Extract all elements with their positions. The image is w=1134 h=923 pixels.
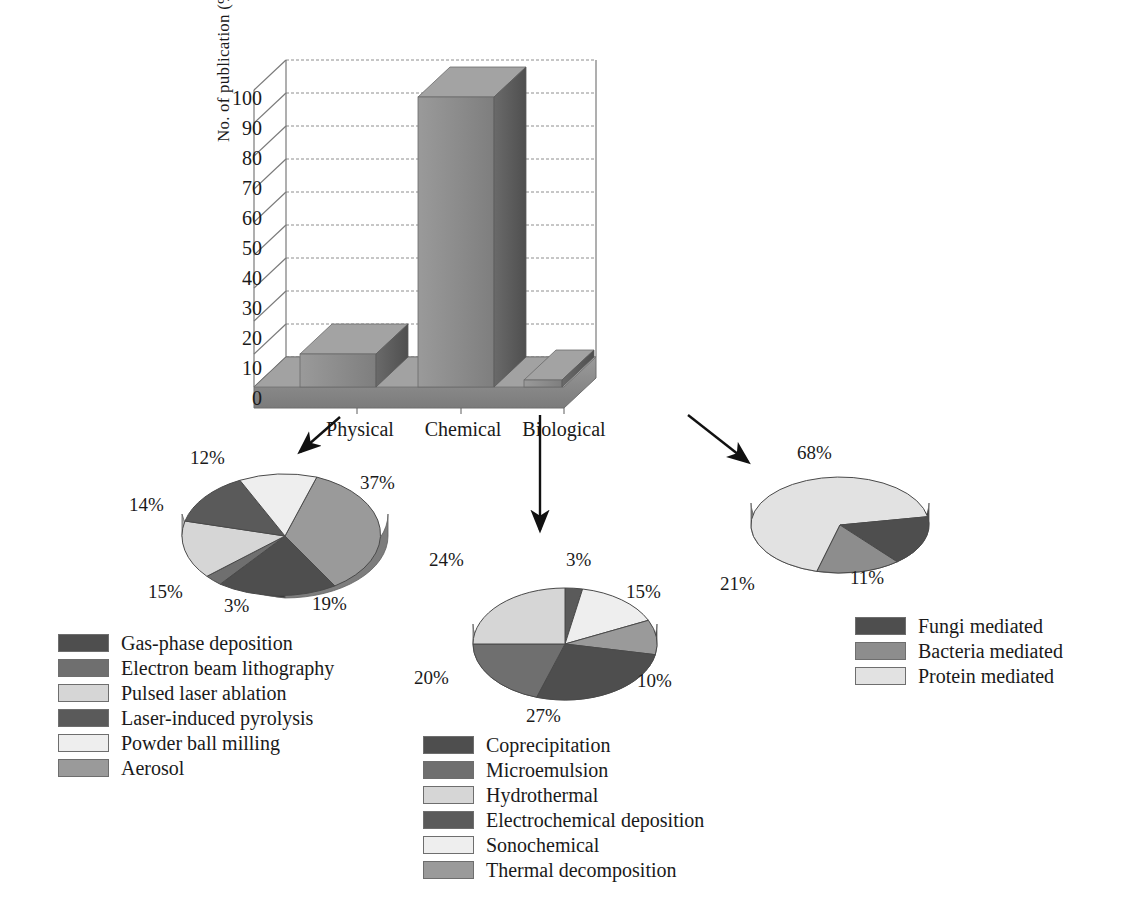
slice-hydrothermal [473, 588, 565, 644]
legend-item-bacteria-mediated: Bacteria mediated [855, 638, 1063, 663]
legend-label-fungi-mediated: Fungi mediated [918, 616, 1043, 636]
legend-biological: Fungi mediated Bacteria mediated Protein… [855, 613, 1063, 688]
pie-physical-label-19: 19% [312, 593, 347, 615]
legend-item-thermal-decomposition: Thermal decomposition [423, 857, 704, 882]
legend-swatch-microemulsion [423, 761, 474, 779]
legend-swatch-thermal-decomposition [423, 861, 474, 879]
y-tick-0: 0 [216, 387, 262, 410]
legend-swatch-bacteria-mediated [855, 642, 906, 660]
legend-swatch-electrochemical [423, 811, 474, 829]
legend-swatch-gas-phase [58, 634, 109, 652]
legend-label-laser-pyrolysis: Laser-induced pyrolysis [121, 708, 313, 728]
legend-physical: Gas-phase deposition Electron beam litho… [58, 630, 334, 780]
legend-swatch-protein-mediated [855, 667, 906, 685]
pie-physical-label-12: 12% [190, 447, 225, 469]
legend-label-microemulsion: Microemulsion [486, 760, 608, 780]
legend-item-powder-ball: Powder ball milling [58, 730, 334, 755]
legend-label-coprecipitation: Coprecipitation [486, 735, 610, 755]
bar-chart: No. of publication (%) 100 90 80 70 60 5… [228, 30, 628, 405]
y-tick-100: 100 [216, 87, 262, 110]
legend-item-pulsed-ablation: Pulsed laser ablation [58, 680, 334, 705]
legend-label-thermal-decomposition: Thermal decomposition [486, 860, 677, 880]
legend-item-microemulsion: Microemulsion [423, 757, 704, 782]
pie-chemical-label-3: 3% [566, 549, 591, 571]
legend-label-hydrothermal: Hydrothermal [486, 785, 598, 805]
y-tick-80: 80 [216, 147, 262, 170]
y-tick-40: 40 [216, 267, 262, 290]
legend-item-sonochemical: Sonochemical [423, 832, 704, 857]
pie-chemical-label-20: 20% [414, 667, 449, 689]
y-tick-50: 50 [216, 237, 262, 260]
legend-item-fungi-mediated: Fungi mediated [855, 613, 1063, 638]
y-tick-90: 90 [216, 117, 262, 140]
y-tick-10: 10 [216, 357, 262, 380]
legend-swatch-powder-ball [58, 734, 109, 752]
legend-item-electron-beam: Electron beam lithography [58, 655, 334, 680]
legend-swatch-hydrothermal [423, 786, 474, 804]
pie-chart-physical: 12% 37% 14% 15% 3% 19% [160, 450, 410, 630]
bar-chemical [418, 67, 526, 387]
legend-swatch-fungi-mediated [855, 617, 906, 635]
y-tick-30: 30 [216, 297, 262, 320]
legend-swatch-sonochemical [423, 836, 474, 854]
pie-physical-label-3: 3% [224, 595, 249, 617]
pie-biological-label-11: 11% [850, 567, 884, 589]
y-tick-70: 70 [216, 177, 262, 200]
pie-biological-label-21: 21% [720, 573, 755, 595]
pie-physical-label-37: 37% [360, 472, 395, 494]
legend-label-bacteria-mediated: Bacteria mediated [918, 641, 1063, 661]
legend-item-aerosol: Aerosol [58, 755, 334, 780]
legend-item-laser-pyrolysis: Laser-induced pyrolysis [58, 705, 334, 730]
legend-swatch-aerosol [58, 759, 109, 777]
legend-label-electrochemical: Electrochemical deposition [486, 810, 704, 830]
legend-label-pulsed-ablation: Pulsed laser ablation [121, 683, 287, 703]
pie-chemical-label-10: 10% [637, 670, 672, 692]
pie-biological-label-68: 68% [797, 442, 832, 464]
pie-physical-label-14: 14% [129, 494, 164, 516]
legend-label-powder-ball: Powder ball milling [121, 733, 280, 753]
legend-item-electrochemical: Electrochemical deposition [423, 807, 704, 832]
legend-swatch-pulsed-ablation [58, 684, 109, 702]
legend-label-electron-beam: Electron beam lithography [121, 658, 334, 678]
pie-physical-label-15: 15% [148, 581, 183, 603]
legend-label-aerosol: Aerosol [121, 758, 184, 778]
legend-item-hydrothermal: Hydrothermal [423, 782, 704, 807]
pie-chemical-label-15: 15% [626, 581, 661, 603]
y-tick-20: 20 [216, 327, 262, 350]
legend-label-sonochemical: Sonochemical [486, 835, 599, 855]
legend-swatch-coprecipitation [423, 736, 474, 754]
pie-biological-canvas [735, 455, 945, 605]
pie-chart-chemical: 24% 3% 15% 10% 20% 27% [450, 565, 680, 735]
figure-root: No. of publication (%) 100 90 80 70 60 5… [0, 0, 1134, 923]
y-tick-60: 60 [216, 207, 262, 230]
legend-item-gas-phase: Gas-phase deposition [58, 630, 334, 655]
legend-swatch-laser-pyrolysis [58, 709, 109, 727]
legend-chemical: Coprecipitation Microemulsion Hydrotherm… [423, 732, 704, 882]
legend-swatch-electron-beam [58, 659, 109, 677]
pie-chemical-label-24: 24% [429, 549, 464, 571]
bar-chart-canvas [228, 30, 628, 450]
legend-label-protein-mediated: Protein mediated [918, 666, 1054, 686]
x-tick-biological: Biological [494, 418, 634, 441]
pie-chemical-label-27: 27% [526, 705, 561, 727]
legend-label-gas-phase: Gas-phase deposition [121, 633, 293, 653]
pie-chart-biological: 68% 21% 11% [735, 455, 945, 605]
legend-item-coprecipitation: Coprecipitation [423, 732, 704, 757]
legend-item-protein-mediated: Protein mediated [855, 663, 1063, 688]
